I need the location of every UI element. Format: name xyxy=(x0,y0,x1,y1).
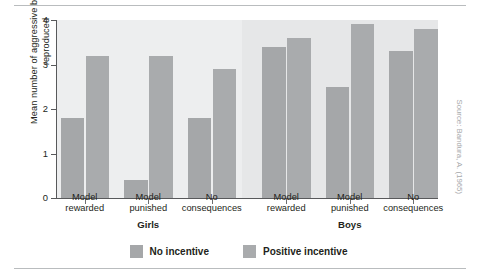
group-label-boys: Boys xyxy=(300,219,400,230)
x-category-label-line1: No xyxy=(172,192,252,203)
y-tick-label: 1 xyxy=(43,148,48,159)
x-category-label: Noconsequences xyxy=(373,192,453,215)
bar-positive-incentive-5 xyxy=(414,29,438,198)
legend-item-no-incentive: No incentive xyxy=(130,245,209,258)
chart-legend: No incentive Positive incentive xyxy=(0,245,477,258)
bottom-divider xyxy=(14,268,466,269)
y-tick: 3 xyxy=(51,65,57,66)
bar-positive-incentive-0 xyxy=(86,56,110,198)
bar-no-incentive-2 xyxy=(188,118,212,198)
x-category-label-line2: consequences xyxy=(373,203,453,214)
y-tick: 4 xyxy=(51,20,57,21)
bar-no-incentive-5 xyxy=(389,51,413,198)
chart-plot: 01234 xyxy=(38,14,438,206)
bar-no-incentive-3 xyxy=(262,47,286,198)
bar-positive-incentive-1 xyxy=(149,56,173,198)
legend-swatch-icon xyxy=(130,245,143,258)
legend-label: Positive incentive xyxy=(263,246,347,257)
bar-no-incentive-0 xyxy=(61,118,85,198)
x-category-label-line1: No xyxy=(373,192,453,203)
y-tick-label: 2 xyxy=(43,103,48,114)
y-tick-label: 3 xyxy=(43,59,48,70)
bar-positive-incentive-2 xyxy=(213,69,237,198)
bar-no-incentive-4 xyxy=(326,87,350,198)
legend-item-positive-incentive: Positive incentive xyxy=(243,245,347,258)
x-category-label-line2: consequences xyxy=(172,203,252,214)
y-tick: 1 xyxy=(51,154,57,155)
x-category-label: Noconsequences xyxy=(172,192,252,215)
y-tick: 2 xyxy=(51,109,57,110)
legend-swatch-icon xyxy=(243,245,256,258)
legend-label: No incentive xyxy=(150,246,209,257)
plot-area xyxy=(57,20,438,198)
bar-positive-incentive-4 xyxy=(351,24,375,198)
group-label-girls: Girls xyxy=(98,219,198,230)
source-credit: Source: Bandura, A. (1965) xyxy=(455,100,464,230)
figure-page: Mean number of aggressive behaviours rep… xyxy=(0,0,477,280)
top-divider xyxy=(14,5,466,6)
bar-positive-incentive-3 xyxy=(287,38,311,198)
y-tick-label: 4 xyxy=(43,14,48,25)
